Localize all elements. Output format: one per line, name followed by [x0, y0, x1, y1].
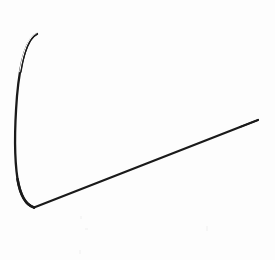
line-drawing-svg: [0, 0, 275, 260]
figure-canvas: Hand-drawn angular line figure: [0, 0, 275, 260]
